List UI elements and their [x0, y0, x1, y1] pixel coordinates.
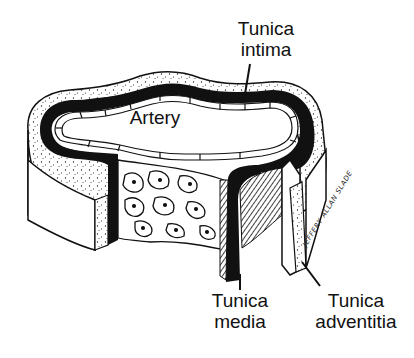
- label-tunica-intima-line1: Tunica: [233, 18, 299, 39]
- label-tunica-media-line1: Tunica: [206, 290, 274, 311]
- label-tunica-media-line2: media: [206, 311, 274, 332]
- cell-floor: [118, 160, 226, 250]
- label-tunica-intima-line2: intima: [233, 39, 299, 60]
- label-tunica-adventitia: Tunica adventitia: [309, 290, 403, 332]
- label-artery: Artery: [124, 107, 186, 128]
- adventitia-leader: [302, 262, 320, 286]
- label-tunica-adventitia-line1: Tunica: [309, 290, 403, 311]
- label-tunica-intima: Tunica intima: [233, 18, 299, 60]
- label-tunica-media: Tunica media: [206, 290, 274, 332]
- label-tunica-adventitia-line2: adventitia: [309, 311, 403, 332]
